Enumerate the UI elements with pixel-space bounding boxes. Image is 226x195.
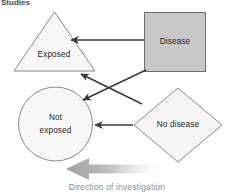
- direction-caption: Direction of investigation: [69, 182, 166, 192]
- not-exposed-label-line2: exposed: [39, 126, 71, 135]
- direction-of-investigation: Direction of investigation: [66, 158, 165, 192]
- no-disease-label: No disease: [157, 120, 200, 129]
- not-exposed-label-line1: Not: [49, 113, 63, 122]
- exposed-triangle-shape: [14, 12, 95, 71]
- node-exposed: Exposed: [14, 12, 95, 71]
- case-control-diagram: Studies Exposed Disease Not exposed No d…: [0, 0, 226, 195]
- node-no-disease: No disease: [134, 88, 222, 162]
- node-disease: Disease: [145, 13, 206, 72]
- diagram-canvas: Studies Exposed Disease Not exposed No d…: [0, 0, 226, 195]
- clipped-heading-text: Studies: [1, 0, 30, 7]
- connector-no-disease-to-exposed: [81, 74, 142, 104]
- direction-arrow-icon: [66, 158, 164, 180]
- connector-disease-to-not-exposed: [83, 70, 146, 100]
- exposed-label: Exposed: [38, 50, 71, 59]
- node-not-exposed: Not exposed: [19, 87, 93, 161]
- disease-label: Disease: [160, 37, 191, 46]
- clipped-heading: Studies: [1, 0, 30, 7]
- not-exposed-circle-shape: [19, 87, 93, 161]
